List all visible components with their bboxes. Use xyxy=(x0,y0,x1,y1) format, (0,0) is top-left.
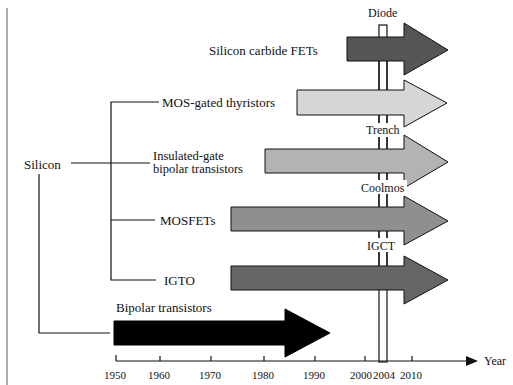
power-device-timeline-diagram: Silicon MOS-gated thyristors Insulated-g… xyxy=(0,0,513,385)
time-axis xyxy=(116,355,470,361)
svg-text:1960: 1960 xyxy=(148,369,171,381)
svg-text:1950: 1950 xyxy=(104,369,127,381)
tree-connectors xyxy=(39,102,159,333)
annotation-igct: IGCT xyxy=(367,239,396,253)
axis-label-year: Year xyxy=(484,354,506,368)
svg-text:2010: 2010 xyxy=(400,369,423,381)
arrow-mosfets xyxy=(231,196,448,245)
svg-text:2000: 2000 xyxy=(350,369,373,381)
svg-text:1980: 1980 xyxy=(252,369,275,381)
annotation-trench: Trench xyxy=(366,123,400,137)
annotation-diode: Diode xyxy=(368,6,397,20)
arrow-sic-fets xyxy=(347,23,448,75)
arrow-igbt xyxy=(265,135,448,188)
label-igbt-line1: Insulated-gate xyxy=(153,149,224,163)
arrow-igto xyxy=(231,256,448,304)
arrow-mos-gated-thyristors xyxy=(297,80,447,127)
label-mosfets: MOSFETs xyxy=(160,213,215,228)
svg-text:1970: 1970 xyxy=(199,369,222,381)
root-label-silicon: Silicon xyxy=(24,157,61,172)
svg-text:1990: 1990 xyxy=(303,369,326,381)
label-bipolar-transistors: Bipolar transistors xyxy=(116,300,212,315)
label-mos-gated-thyristors: MOS-gated thyristors xyxy=(162,95,275,110)
annotation-coolmos: Coolmos xyxy=(361,181,405,195)
axis-arrowhead-icon xyxy=(466,356,478,366)
label-igbt-line2: bipolar transistors xyxy=(153,162,243,176)
axis-tick-labels: 1950 1960 1970 1980 1990 2000 2004 2010 xyxy=(104,369,423,381)
label-sic-fets: Silicon carbide FETs xyxy=(209,43,318,58)
label-igto: IGTO xyxy=(164,273,195,288)
arrow-bipolar-transistors xyxy=(114,309,330,357)
svg-text:2004: 2004 xyxy=(373,369,396,381)
